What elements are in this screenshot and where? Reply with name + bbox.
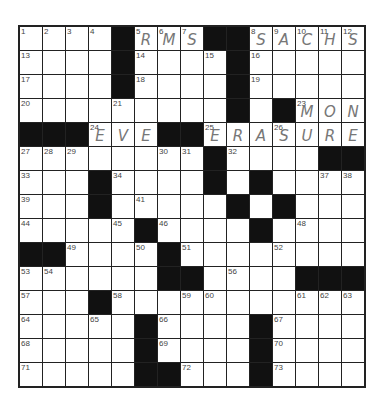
grid-cell[interactable] [43, 291, 65, 314]
grid-cell[interactable]: 23M [296, 99, 318, 122]
grid-cell[interactable]: 10C [296, 27, 318, 50]
grid-cell[interactable] [89, 339, 111, 362]
grid-cell[interactable] [181, 195, 203, 218]
grid-cell[interactable] [89, 99, 111, 122]
grid-cell[interactable]: 19 [250, 75, 272, 98]
grid-cell[interactable]: E [135, 123, 157, 146]
grid-cell[interactable] [43, 363, 65, 386]
grid-cell[interactable] [66, 315, 88, 338]
grid-cell[interactable] [227, 339, 249, 362]
grid-cell[interactable]: 70 [273, 339, 295, 362]
grid-cell[interactable] [342, 195, 364, 218]
grid-cell[interactable]: 30 [158, 147, 180, 170]
grid-cell[interactable]: 61 [296, 291, 318, 314]
grid-cell[interactable] [204, 339, 226, 362]
grid-cell[interactable] [319, 195, 341, 218]
grid-cell[interactable] [250, 243, 272, 266]
grid-cell[interactable] [112, 363, 134, 386]
grid-cell[interactable] [89, 75, 111, 98]
grid-cell[interactable]: 31 [181, 147, 203, 170]
grid-cell[interactable] [158, 51, 180, 74]
grid-cell[interactable] [273, 171, 295, 194]
grid-cell[interactable]: 63 [342, 291, 364, 314]
grid-cell[interactable] [250, 291, 272, 314]
grid-cell[interactable] [273, 147, 295, 170]
grid-cell[interactable]: O [319, 99, 341, 122]
grid-cell[interactable]: 8S [250, 27, 272, 50]
grid-cell[interactable]: V [112, 123, 134, 146]
grid-cell[interactable]: R [227, 123, 249, 146]
grid-cell[interactable] [112, 339, 134, 362]
grid-cell[interactable] [43, 51, 65, 74]
grid-cell[interactable] [227, 243, 249, 266]
grid-cell[interactable] [43, 99, 65, 122]
grid-cell[interactable] [273, 291, 295, 314]
grid-cell[interactable]: 11H [319, 27, 341, 50]
grid-cell[interactable]: 20 [20, 99, 42, 122]
grid-cell[interactable] [342, 243, 364, 266]
grid-cell[interactable] [135, 99, 157, 122]
grid-cell[interactable]: 3 [66, 27, 88, 50]
grid-cell[interactable] [319, 51, 341, 74]
grid-cell[interactable] [135, 267, 157, 290]
grid-cell[interactable]: 5R [135, 27, 157, 50]
grid-cell[interactable] [250, 195, 272, 218]
grid-cell[interactable]: 73 [273, 363, 295, 386]
grid-cell[interactable]: 68 [20, 339, 42, 362]
grid-cell[interactable] [204, 75, 226, 98]
grid-cell[interactable]: 4 [89, 27, 111, 50]
grid-cell[interactable] [181, 219, 203, 242]
grid-cell[interactable] [135, 171, 157, 194]
grid-cell[interactable]: U [296, 123, 318, 146]
grid-cell[interactable] [296, 75, 318, 98]
grid-cell[interactable] [319, 363, 341, 386]
grid-cell[interactable]: 52 [273, 243, 295, 266]
grid-cell[interactable] [158, 171, 180, 194]
grid-cell[interactable]: 45 [112, 219, 134, 242]
grid-cell[interactable] [135, 147, 157, 170]
grid-cell[interactable] [89, 267, 111, 290]
grid-cell[interactable] [89, 51, 111, 74]
grid-cell[interactable]: 15 [204, 51, 226, 74]
grid-cell[interactable] [296, 243, 318, 266]
grid-cell[interactable]: 49 [66, 243, 88, 266]
grid-cell[interactable] [342, 339, 364, 362]
grid-cell[interactable]: 53 [20, 267, 42, 290]
grid-cell[interactable] [319, 75, 341, 98]
grid-cell[interactable] [89, 363, 111, 386]
grid-cell[interactable]: N [342, 99, 364, 122]
grid-cell[interactable] [204, 267, 226, 290]
grid-cell[interactable] [66, 219, 88, 242]
grid-cell[interactable]: 16 [250, 51, 272, 74]
grid-cell[interactable] [43, 171, 65, 194]
grid-cell[interactable]: 65 [89, 315, 111, 338]
grid-cell[interactable] [112, 147, 134, 170]
grid-cell[interactable] [181, 171, 203, 194]
grid-cell[interactable]: 71 [20, 363, 42, 386]
grid-cell[interactable]: 50 [135, 243, 157, 266]
grid-cell[interactable]: 6M [158, 27, 180, 50]
grid-cell[interactable] [296, 147, 318, 170]
grid-cell[interactable] [296, 171, 318, 194]
grid-cell[interactable] [43, 75, 65, 98]
grid-cell[interactable]: 13 [20, 51, 42, 74]
grid-cell[interactable] [66, 51, 88, 74]
grid-cell[interactable]: 72 [181, 363, 203, 386]
grid-cell[interactable] [250, 147, 272, 170]
grid-cell[interactable] [89, 243, 111, 266]
grid-cell[interactable]: 64 [20, 315, 42, 338]
grid-cell[interactable] [227, 315, 249, 338]
grid-cell[interactable] [227, 363, 249, 386]
grid-cell[interactable]: 26S [273, 123, 295, 146]
grid-cell[interactable] [89, 219, 111, 242]
grid-cell[interactable] [66, 195, 88, 218]
grid-cell[interactable] [66, 171, 88, 194]
grid-cell[interactable]: 28 [43, 147, 65, 170]
grid-cell[interactable] [342, 75, 364, 98]
grid-cell[interactable]: 14 [135, 51, 157, 74]
grid-cell[interactable] [296, 195, 318, 218]
grid-cell[interactable] [204, 315, 226, 338]
grid-cell[interactable] [204, 195, 226, 218]
grid-cell[interactable] [319, 315, 341, 338]
grid-cell[interactable]: 54 [43, 267, 65, 290]
